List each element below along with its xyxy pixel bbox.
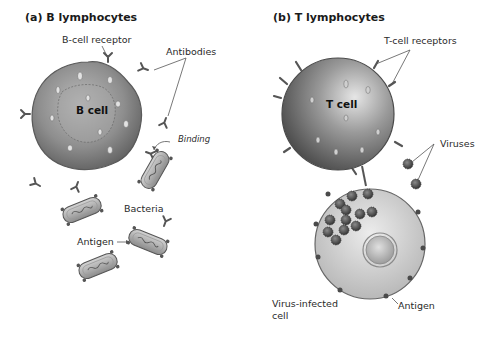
viruses-label: Viruses: [440, 138, 475, 149]
b-cell-label: B cell: [76, 104, 108, 116]
antibodies-label: Antibodies: [166, 46, 216, 57]
bacteria-label: Bacteria: [124, 203, 164, 214]
t-cell-receptors-label: T-cell receptors: [384, 35, 457, 46]
t-cell-label: T cell: [326, 98, 357, 110]
antigen-label-b: Antigen: [398, 300, 435, 311]
panel-b-title: (b) T lymphocytes: [273, 11, 385, 24]
virus-infected-label-line2: cell: [272, 310, 288, 321]
panel-a-title: (a) B lymphocytes: [25, 11, 137, 24]
free-viruses: [403, 159, 421, 189]
diagram-artwork: [0, 0, 492, 338]
antigen-label-a: Antigen: [77, 236, 114, 247]
t-cell: [274, 58, 402, 186]
virus-infected-cell: [314, 189, 426, 299]
binding-label: Binding: [178, 134, 210, 145]
virus-infected-label-line1: Virus-infected: [272, 298, 338, 309]
b-cell-receptor-label: B-cell receptor: [62, 34, 131, 45]
